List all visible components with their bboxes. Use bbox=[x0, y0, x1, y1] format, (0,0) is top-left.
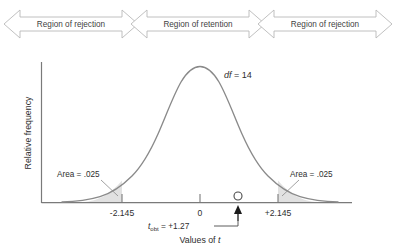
t-distribution-figure: Region of rejection Region of retention … bbox=[0, 0, 397, 250]
observed-value-arrow-icon bbox=[234, 205, 242, 214]
t-distribution-curve bbox=[62, 67, 338, 203]
observed-value-circle-icon bbox=[234, 192, 242, 200]
x-tick-label-negative: -2.145 bbox=[110, 208, 135, 218]
area-annotation-left: Area = .025 bbox=[57, 170, 118, 196]
x-tick-label-zero: 0 bbox=[198, 208, 203, 218]
tobt-value: = +1.27 bbox=[159, 221, 190, 231]
banner-label-center: Region of retention bbox=[163, 20, 233, 29]
x-tick-label-positive: +2.145 bbox=[265, 208, 292, 218]
area-label-left: Area = .025 bbox=[57, 170, 100, 179]
region-banners: Region of rejection Region of retention … bbox=[4, 10, 392, 38]
y-axis-label: Relative frequency bbox=[23, 96, 33, 169]
banner-region-of-rejection-left: Region of rejection bbox=[4, 10, 138, 38]
tobt-annotation: tobt = +1.27 bbox=[148, 221, 190, 232]
banner-region-of-retention: Region of retention bbox=[131, 10, 265, 38]
area-label-right: Area = .025 bbox=[290, 170, 333, 179]
x-axis-title-prefix: Values of bbox=[180, 235, 218, 245]
left-tail-shading bbox=[78, 181, 122, 203]
banner-label-right: Region of rejection bbox=[291, 20, 360, 29]
tobt-leader-line bbox=[214, 221, 238, 226]
df-value: = 14 bbox=[232, 70, 252, 80]
observed-statistic-marker bbox=[214, 192, 242, 226]
axes bbox=[42, 62, 353, 203]
x-axis-title: Values of t bbox=[180, 235, 221, 245]
banner-region-of-rejection-right: Region of rejection bbox=[258, 10, 392, 38]
banner-label-left: Region of rejection bbox=[37, 20, 106, 29]
x-axis-title-variable: t bbox=[218, 235, 221, 245]
df-annotation: df = 14 bbox=[224, 70, 252, 80]
right-tail-shading bbox=[278, 181, 322, 203]
